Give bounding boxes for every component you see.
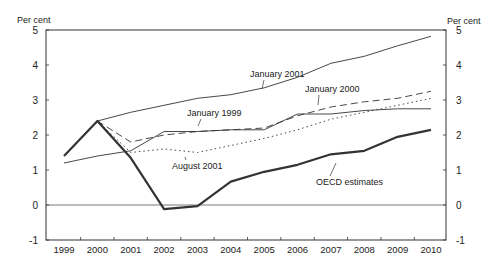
x-tick-label: 1999 <box>53 244 74 255</box>
y-tick-label: 5 <box>456 25 462 36</box>
y-tick-label: 4 <box>456 60 462 71</box>
annotation: August 2001 <box>172 157 223 171</box>
x-tick-label: 2003 <box>187 244 208 255</box>
series-january-1999 <box>64 109 431 163</box>
annotation-label: OECD estimates <box>316 177 384 187</box>
annotation-arrow <box>318 95 319 105</box>
y-tick-label: 2 <box>456 130 462 141</box>
line-chart: -1012345 -1012345 1999200020012002200320… <box>0 0 496 268</box>
x-tick-label: 2001 <box>120 244 141 255</box>
y-tick-label: 0 <box>32 200 38 211</box>
y-axis-label-right: Per cent <box>447 16 481 26</box>
y-tick-label: 3 <box>456 95 462 106</box>
annotation: January 1999 <box>187 108 242 126</box>
y-tick-label: 2 <box>32 130 38 141</box>
y-tick-label: -1 <box>29 235 38 246</box>
annotation-label: January 1999 <box>187 108 242 118</box>
x-tick-label: 2002 <box>154 244 175 255</box>
annotation-arrow <box>330 163 336 176</box>
annotation-arrow <box>185 157 186 160</box>
x-tick-label: 2006 <box>287 244 308 255</box>
annotation: January 2001 <box>250 69 305 89</box>
x-tick-label: 2009 <box>387 244 408 255</box>
series-january-2000 <box>97 91 431 142</box>
x-tick-label: 2008 <box>354 244 375 255</box>
y-tick-label: 1 <box>456 165 462 176</box>
y-tick-label: 3 <box>32 95 38 106</box>
plot-frame <box>46 30 446 240</box>
annotation: OECD estimates <box>316 163 384 187</box>
annotation-label: January 2000 <box>305 84 360 94</box>
y-axis-label-left: Per cent <box>17 15 51 25</box>
x-tick-label: 2005 <box>254 244 275 255</box>
annotation: January 2000 <box>305 84 360 105</box>
annotation-label: January 2001 <box>250 69 305 79</box>
y-tick-label: 0 <box>456 200 462 211</box>
y-tick-label: 4 <box>32 60 38 71</box>
annotation-arrow <box>198 119 201 126</box>
annotation-label: August 2001 <box>172 161 223 171</box>
x-tick-label: 2004 <box>220 244 241 255</box>
y-tick-label: 5 <box>32 25 38 36</box>
y-tick-label: 1 <box>32 165 38 176</box>
x-tick-label: 2000 <box>87 244 108 255</box>
x-tick-label: 2010 <box>420 244 441 255</box>
x-tick-label: 2007 <box>320 244 341 255</box>
plot-border <box>46 30 446 240</box>
y-tick-label: -1 <box>456 235 465 246</box>
